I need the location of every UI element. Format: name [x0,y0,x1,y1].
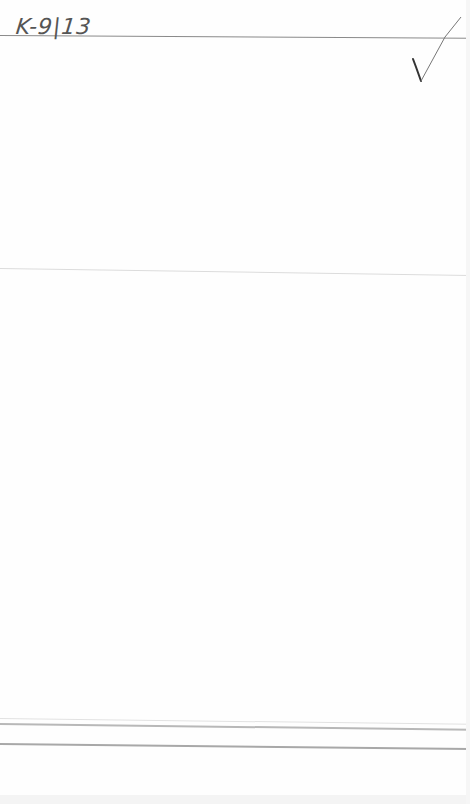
scanned-page: K-9|13 [0,0,470,804]
fold-line [0,268,470,276]
bottom-rule-upper [0,723,470,731]
handwritten-code: K-9|13 [15,14,93,39]
bottom-rule-lower [0,743,470,750]
page-bottom-edge [0,795,470,804]
check-mark-icon [405,15,465,85]
page-side-edge [466,0,470,804]
